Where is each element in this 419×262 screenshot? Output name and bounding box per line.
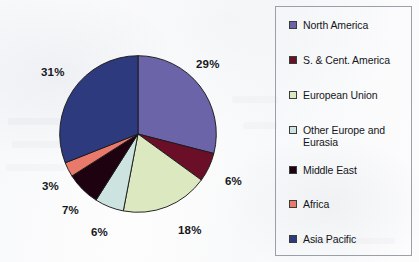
legend-item-north-america[interactable]: North America xyxy=(289,19,411,31)
legend-swatch-middle-east xyxy=(289,166,297,174)
legend-label-middle-east: Middle East xyxy=(303,164,357,176)
legend-label-other-europe-eurasia: Other Europe and Eurasia xyxy=(303,124,411,148)
legend-item-middle-east[interactable]: Middle East xyxy=(289,164,411,176)
legend-item-asia-pacific[interactable]: Asia Pacific xyxy=(289,233,411,245)
legend-label-s-cent-america: S. & Cent. America xyxy=(303,54,390,66)
slice-label-north-america: 29% xyxy=(196,58,220,70)
legend-label-asia-pacific: Asia Pacific xyxy=(303,233,356,245)
legend-swatch-asia-pacific xyxy=(289,235,297,243)
legend-swatch-africa xyxy=(289,200,297,208)
slice-label-other-europe-eurasia: 6% xyxy=(91,226,108,238)
slice-label-africa: 3% xyxy=(42,180,59,192)
legend-label-european-union: European Union xyxy=(303,89,378,101)
legend-item-africa[interactable]: Africa xyxy=(289,198,411,210)
slice-label-european-union: 18% xyxy=(178,224,202,236)
legend-label-north-america: North America xyxy=(303,19,368,31)
legend-item-european-union[interactable]: European Union xyxy=(289,89,411,101)
legend-item-other-europe-eurasia[interactable]: Other Europe and Eurasia xyxy=(289,124,411,148)
pie-chart-area: 29% 6% 18% 6% 7% 3% 31% xyxy=(0,0,268,262)
legend-label-africa: Africa xyxy=(303,198,329,210)
slice-label-middle-east: 7% xyxy=(62,204,79,216)
legend-item-s-cent-america[interactable]: S. & Cent. America xyxy=(289,54,411,66)
legend-swatch-north-america xyxy=(289,21,297,29)
legend-swatch-s-cent-america xyxy=(289,56,297,64)
legend-swatch-european-union xyxy=(289,91,297,99)
slice-label-asia-pacific: 31% xyxy=(41,66,65,78)
pie-chart-screenshot: 29% 6% 18% 6% 7% 3% 31% North America S.… xyxy=(0,0,419,262)
pie-graphic xyxy=(55,51,221,217)
legend-box: North America S. & Cent. America Europea… xyxy=(275,6,412,256)
slice-label-s-cent-america: 6% xyxy=(225,175,242,187)
legend-swatch-other-europe-eurasia xyxy=(289,126,297,134)
